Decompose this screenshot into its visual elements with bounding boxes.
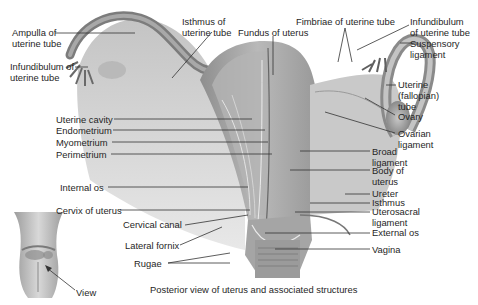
label-line: uterine tube [10,72,74,83]
label-line: ligament [410,49,460,60]
label-view: View [76,287,96,298]
label-line: Ovarian [398,128,433,139]
label-cervix: Cervix of uterus [56,205,122,216]
label-ampulla: Ampulla of uterine tube [12,27,62,49]
label-infundibulum-left: Infundibulum of uterine tube [10,61,74,83]
label-line: Broad [372,146,407,157]
label-line: Isthmus of [182,16,232,27]
label-isthmus-tube: Isthmus of uterine tube [182,16,232,38]
label-fimbriae: Fimbriae of uterine tube [296,16,395,27]
label-ovary: Ovary [398,111,423,122]
label-infundibulum-right: Infundibulum of uterine tube [410,16,470,38]
label-body-of-uterus: Body of uterus [372,165,404,187]
inset-posterior-body [14,212,63,298]
label-fundus: Fundus of uterus [238,27,308,38]
label-line: Body of [372,165,404,176]
label-line: Infundibulum of [10,61,74,72]
label-line: uterine tube [12,38,62,49]
label-uterosacral: Uterosacral ligament [372,206,420,228]
label-line: Suspensory [410,38,460,49]
label-line: of uterine tube [410,27,470,38]
label-vagina: Vagina [372,244,401,255]
label-uterine-cavity: Uterine cavity [56,114,113,125]
cervix-vagina [245,215,350,278]
label-suspensory: Suspensory ligament [410,38,460,60]
label-line: uterus [372,176,404,187]
label-cervical-canal: Cervical canal [123,219,182,230]
label-uterine-tube: Uterine (fallopian) tube [398,79,439,112]
label-perimetrium: Perimetrium [56,149,107,160]
label-external-os: External os [372,227,419,238]
figure-caption: Posterior view of uterus and associated … [150,284,357,295]
label-endometrium: Endometrium [56,125,112,136]
label-rugae: Rugae [134,258,162,269]
label-myometrium: Myometrium [56,137,108,148]
label-line: (fallopian) [398,90,439,101]
label-internal-os: Internal os [60,182,104,193]
label-line: Infundibulum [410,16,470,27]
label-line: uterine tube [182,27,232,38]
label-lateral-fornix: Lateral fornix [125,240,179,251]
label-line: Uterosacral [372,206,420,217]
label-line: Ampulla of [12,27,62,38]
label-line: Uterine [398,79,439,90]
